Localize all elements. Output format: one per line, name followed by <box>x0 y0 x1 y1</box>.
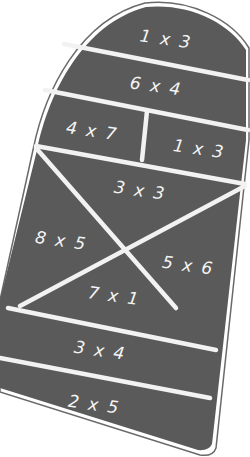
hopscotch-board: 1 x 3 6 x 4 4 x 7 1 x 3 3 x 3 8 x 5 5 x … <box>0 0 250 457</box>
